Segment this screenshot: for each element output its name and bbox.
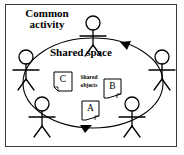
- actor-bottom-left: [29, 97, 55, 137]
- shared-space-label: Shared space: [50, 47, 112, 58]
- document-c-label: C: [54, 74, 72, 84]
- actor-right: [149, 50, 175, 90]
- actor-left: [13, 50, 39, 90]
- shared-objects-label: Shared objects: [76, 74, 102, 89]
- ellipse-arrowhead-top-right: [120, 41, 131, 50]
- actor-bottom-right: [119, 97, 145, 137]
- diagram-root: Common activity Shared space Shared obje…: [0, 0, 184, 155]
- document-b-label: B: [104, 81, 121, 91]
- common-activity-label: Common activity: [18, 8, 76, 30]
- ellipse-arrowhead-bottom: [80, 125, 92, 133]
- document-a-label: A: [82, 103, 99, 113]
